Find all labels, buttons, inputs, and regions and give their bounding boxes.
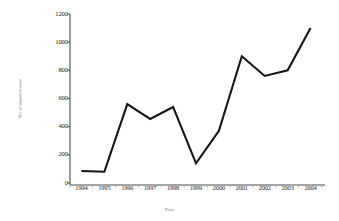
data-series-line: [81, 28, 310, 172]
plot-area: [0, 0, 339, 221]
line-chart-figure: No. of imported cases 020040060080010001…: [0, 0, 339, 221]
